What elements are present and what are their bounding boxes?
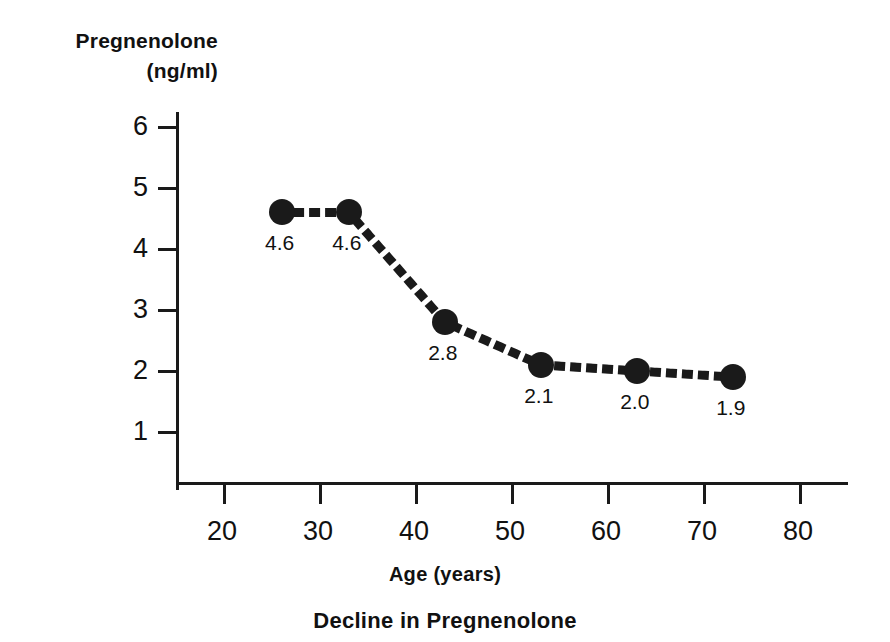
- y-axis-title-line-2: (ng/ml): [18, 56, 218, 86]
- x-tick-label: 20: [192, 518, 252, 545]
- x-axis-title: Age (years): [0, 563, 890, 586]
- y-tick-mark: [158, 431, 178, 434]
- data-point-label: 4.6: [312, 232, 382, 253]
- data-point-label: 1.9: [696, 397, 766, 418]
- x-tick-label: 60: [576, 518, 636, 545]
- data-point-marker: [432, 309, 458, 335]
- y-tick-mark: [158, 187, 178, 190]
- data-point-label: 2.8: [408, 342, 478, 363]
- chart-figure: Pregnenolone (ng/ml) 123456 203040506070…: [0, 0, 890, 642]
- y-axis-title: Pregnenolone (ng/ml): [18, 26, 218, 86]
- y-tick-label: 6: [108, 113, 148, 140]
- y-tick-label: 1: [108, 418, 148, 445]
- y-tick-label: 3: [108, 296, 148, 323]
- y-tick-mark: [158, 309, 178, 312]
- x-tick-mark: [511, 485, 514, 504]
- x-tick-label: 30: [288, 518, 348, 545]
- x-tick-mark: [607, 485, 610, 504]
- data-point-marker: [624, 358, 650, 384]
- y-tick-mark: [158, 248, 178, 251]
- x-tick-mark: [799, 485, 802, 504]
- data-point-marker: [720, 364, 746, 390]
- chart-title: Decline in Pregnenolone: [0, 608, 890, 634]
- data-point-label: 2.1: [504, 385, 574, 406]
- data-point-label: 2.0: [600, 391, 670, 412]
- data-point-marker: [528, 352, 554, 378]
- data-point-marker: [336, 199, 362, 225]
- x-tick-label: 40: [384, 518, 444, 545]
- x-tick-label: 50: [480, 518, 540, 545]
- data-point-marker: [269, 199, 295, 225]
- y-tick-mark: [158, 126, 178, 129]
- y-tick-label: 4: [108, 235, 148, 262]
- data-point-label: 4.6: [245, 232, 315, 253]
- x-tick-label: 80: [768, 518, 828, 545]
- x-tick-mark: [223, 485, 226, 504]
- x-tick-mark: [415, 485, 418, 504]
- y-tick-label: 5: [108, 174, 148, 201]
- x-tick-mark: [319, 485, 322, 504]
- y-tick-mark: [158, 370, 178, 373]
- x-tick-mark: [703, 485, 706, 504]
- y-tick-label: 2: [108, 357, 148, 384]
- y-axis-title-line-1: Pregnenolone: [18, 26, 218, 56]
- x-tick-label: 70: [672, 518, 732, 545]
